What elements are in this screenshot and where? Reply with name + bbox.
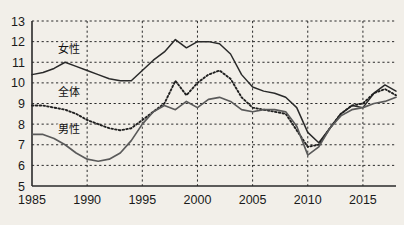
y-axis-tick-label: 12: [11, 35, 25, 49]
x-axis-tick-label: 2015: [349, 193, 377, 207]
line-chart: 5678910111213 19851990199520002005201020…: [0, 0, 404, 225]
y-axis-tick-label: 6: [18, 159, 25, 173]
series-label-女性: 女性: [58, 42, 80, 56]
x-axis-tick-label: 2005: [239, 193, 267, 207]
y-axis-tick-label: 9: [18, 97, 25, 111]
x-axis-tick-label: 2000: [184, 193, 212, 207]
x-axis-tick-label: 1995: [128, 193, 156, 207]
y-axis-tick-label: 8: [18, 118, 25, 132]
series-label-全体: 全体: [58, 85, 80, 99]
y-axis-tick-label: 10: [11, 76, 25, 90]
y-axis-tick-label: 11: [12, 56, 25, 70]
chart-canvas: 5678910111213 19851990199520002005201020…: [0, 0, 404, 225]
x-axis-tick-label: 2010: [294, 193, 322, 207]
series-label-男性: 男性: [58, 122, 80, 136]
y-axis-tick-label: 7: [18, 138, 25, 152]
y-axis-tick-label: 13: [11, 15, 25, 29]
y-axis-tick-label: 5: [18, 180, 25, 194]
x-axis-tick-label: 1985: [18, 193, 46, 207]
x-axis-tick-label: 1990: [73, 193, 101, 207]
